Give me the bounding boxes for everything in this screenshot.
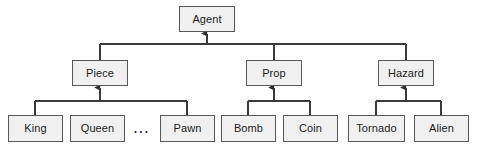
node-queen-label: Queen	[81, 123, 115, 134]
node-pawn-label: Pawn	[174, 123, 202, 134]
node-bomb-label: Bomb	[234, 123, 263, 134]
node-pawn[interactable]: Pawn	[160, 115, 215, 142]
node-piece[interactable]: Piece	[72, 60, 128, 86]
node-agent[interactable]: Agent	[179, 6, 235, 32]
node-coin-label: Coin	[299, 123, 322, 134]
node-tornado-label: Tornado	[356, 123, 396, 134]
node-king[interactable]: King	[8, 115, 63, 142]
node-prop[interactable]: Prop	[246, 60, 302, 86]
node-coin[interactable]: Coin	[283, 115, 338, 142]
edge-group-hazard	[376, 101, 441, 115]
class-hierarchy-diagram: Agent Piece Prop Hazard King Queen ... P…	[0, 0, 477, 150]
node-bomb[interactable]: Bomb	[221, 115, 276, 142]
node-hazard[interactable]: Hazard	[378, 60, 434, 86]
edge-group-piece	[35, 101, 187, 115]
node-alien[interactable]: Alien	[414, 115, 469, 142]
node-hazard-label: Hazard	[388, 68, 424, 79]
node-piece-label: Piece	[86, 68, 114, 79]
node-queen[interactable]: Queen	[70, 115, 125, 142]
edge-group-agent	[100, 44, 406, 60]
ellipsis-omitted-pieces: ...	[128, 120, 156, 138]
node-tornado[interactable]: Tornado	[348, 115, 405, 142]
node-king-label: King	[24, 123, 46, 134]
edge-group-prop	[248, 101, 310, 115]
node-alien-label: Alien	[429, 123, 454, 134]
node-prop-label: Prop	[262, 68, 286, 79]
ellipsis-label: ...	[134, 122, 151, 136]
node-agent-label: Agent	[192, 14, 221, 25]
